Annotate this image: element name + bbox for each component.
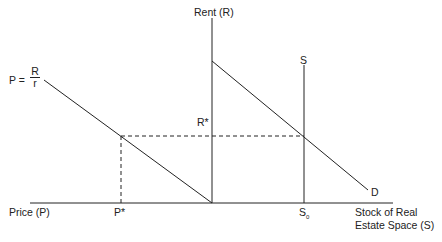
price-equation-lhs: P = [9, 74, 25, 86]
demand-label: D [371, 186, 379, 198]
s-zero-subscript: 0 [306, 214, 309, 220]
supply-label: S [300, 54, 307, 66]
fraction-denominator: r [30, 78, 40, 89]
s-zero-label: S0 [299, 206, 309, 223]
price-axis-label: Price (P) [9, 206, 50, 218]
demand-line [212, 61, 368, 190]
rent-axis-label: Rent (R) [194, 6, 234, 18]
fraction-numerator: R [30, 66, 40, 77]
stock-axis-label-line2: Estate Space (S) [355, 219, 434, 231]
p-star-label: P* [114, 206, 125, 218]
price-rent-line [44, 80, 212, 203]
price-equation-fraction: R r [30, 66, 40, 89]
stock-axis-label-line1: Stock of Real [355, 206, 417, 218]
r-star-label: R* [197, 116, 209, 128]
s-zero-text: S [299, 206, 306, 218]
